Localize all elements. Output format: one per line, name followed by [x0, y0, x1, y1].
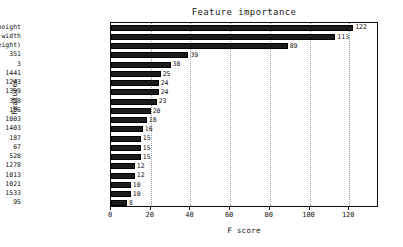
- y-axis-tick-label: 520: [0, 153, 21, 160]
- bar: [111, 71, 161, 77]
- y-axis-tick-label: height: [0, 24, 21, 31]
- y-axis-tick-label: 398: [0, 98, 21, 105]
- x-axis-tick-mark: [189, 207, 190, 210]
- bar-value-label: 15: [143, 145, 151, 152]
- x-axis-tick-label: 80: [254, 211, 284, 219]
- bar-value-label: 30: [173, 61, 181, 68]
- x-axis-tick-mark: [229, 207, 230, 210]
- bar-row: 25: [111, 70, 377, 78]
- bar-row: 16: [111, 125, 377, 133]
- bar-row: 122: [111, 24, 377, 32]
- y-axis-tick-label: 95: [0, 199, 21, 206]
- bar-value-label: 18: [149, 117, 157, 124]
- bar-value-label: 16: [145, 126, 153, 133]
- bar: [111, 89, 159, 95]
- x-axis-tick-mark: [309, 207, 310, 210]
- bar-row: 10: [111, 181, 377, 189]
- bar-row: 12: [111, 172, 377, 180]
- bar-value-label: 89: [290, 43, 298, 50]
- bar-value-label: 24: [161, 89, 169, 96]
- x-axis-label: F score: [110, 226, 378, 235]
- y-axis-tick-label: 1021: [0, 181, 21, 188]
- bar: [111, 80, 159, 86]
- bar-value-label: 113: [337, 34, 349, 41]
- y-axis-tick-label: 187: [0, 135, 21, 142]
- bar-value-label: 12: [137, 172, 145, 179]
- bar: [111, 182, 131, 188]
- y-axis-tick-label: 1003: [0, 116, 21, 123]
- bar-value-label: 25: [163, 71, 171, 78]
- bar-row: 24: [111, 88, 377, 96]
- bar-value-label: 12: [137, 163, 145, 170]
- y-axis-tick-label: 1278: [0, 162, 21, 169]
- bar-value-label: 20: [153, 108, 161, 115]
- bar-row: 18: [111, 116, 377, 124]
- bar-value-label: 15: [143, 154, 151, 161]
- bar-row: 39: [111, 51, 377, 59]
- bar: [111, 34, 335, 40]
- x-axis-tick-label: 40: [174, 211, 204, 219]
- y-axis-tick-label: 1013: [0, 172, 21, 179]
- x-axis-tick-label: 60: [214, 211, 244, 219]
- bar: [111, 145, 141, 151]
- bar-row: 20: [111, 107, 377, 115]
- y-axis-tick-label: 67: [0, 144, 21, 151]
- x-axis-tick-mark: [150, 207, 151, 210]
- bar-row: 15: [111, 153, 377, 161]
- y-axis-tick-label: 106: [0, 107, 21, 114]
- x-axis-tick-mark: [110, 207, 111, 210]
- bar: [111, 108, 151, 114]
- bar-value-label: 10: [133, 191, 141, 198]
- bar-row: 113: [111, 33, 377, 41]
- bar-value-label: 8: [129, 200, 133, 207]
- feature-importance-chart: Feature importance Features 122113893930…: [0, 0, 403, 247]
- bar-value-label: 10: [133, 182, 141, 189]
- y-axis-tick-label: 351: [0, 51, 21, 58]
- bar-row: 89: [111, 42, 377, 50]
- bar-row: 15: [111, 144, 377, 152]
- x-axis-tick-mark: [348, 207, 349, 210]
- y-axis-tick-label: 1243: [0, 79, 21, 86]
- bar-row: 12: [111, 162, 377, 170]
- bar-row: 30: [111, 61, 377, 69]
- x-axis-tick-mark: [269, 207, 270, 210]
- bar: [111, 163, 135, 169]
- y-axis-tick-label: 3: [0, 61, 21, 68]
- y-axis-tick-label: width: [0, 33, 21, 40]
- bar: [111, 99, 157, 105]
- bar-value-label: 39: [190, 52, 198, 59]
- bar: [111, 154, 141, 160]
- x-axis-tick-label: 0: [95, 211, 125, 219]
- x-axis-tick-label: 120: [333, 211, 363, 219]
- bar-row: 23: [111, 98, 377, 106]
- bar: [111, 200, 127, 206]
- plot-area: 1221138939302524242320181615151512121010…: [110, 22, 378, 207]
- bar: [111, 173, 135, 179]
- bar-row: 24: [111, 79, 377, 87]
- bar-value-label: 24: [161, 80, 169, 87]
- bar-row: 10: [111, 190, 377, 198]
- bar-row: 8: [111, 199, 377, 207]
- bar: [111, 117, 147, 123]
- bar: [111, 126, 143, 132]
- y-axis-tick-label: ratio(width/height): [0, 42, 21, 49]
- y-axis-tick-label: 1441: [0, 70, 21, 77]
- bar: [111, 43, 288, 49]
- bar-row: 15: [111, 135, 377, 143]
- x-axis-tick-label: 20: [135, 211, 165, 219]
- y-axis-tick-label: 1533: [0, 190, 21, 197]
- y-axis-tick-label: 1399: [0, 88, 21, 95]
- bar: [111, 136, 141, 142]
- bar-value-label: 23: [159, 98, 167, 105]
- chart-title: Feature importance: [110, 7, 378, 17]
- x-axis-tick-label: 100: [294, 211, 324, 219]
- bar-value-label: 15: [143, 135, 151, 142]
- bar: [111, 52, 188, 58]
- bar: [111, 62, 171, 68]
- bar: [111, 25, 353, 31]
- bar-value-label: 122: [355, 24, 367, 31]
- bar: [111, 191, 131, 197]
- y-axis-tick-label: 1403: [0, 125, 21, 132]
